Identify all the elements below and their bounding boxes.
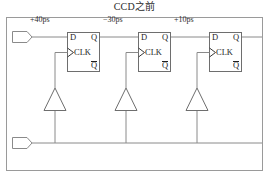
flipflop-2-pin-d: D: [141, 33, 147, 42]
flipflop-3-pin-q: Q: [233, 33, 239, 42]
flipflop-1-pin-d: D: [70, 33, 76, 42]
clock-buffer-1-triangle[interactable]: [44, 88, 66, 111]
flipflop-1-pin-qbar: Q: [91, 61, 97, 70]
flipflop-1-pin-q: Q: [91, 33, 97, 42]
flipflop-2-pin-clk: CLK: [145, 48, 162, 57]
flipflop-3-pin-d: D: [212, 33, 218, 42]
schematic-canvas: [0, 0, 269, 178]
data-input-port-shape[interactable]: [13, 32, 33, 43]
clock-input-port-shape[interactable]: [13, 138, 33, 149]
delay-label-1: +40ps: [30, 15, 50, 24]
clock-buffer-2-triangle[interactable]: [115, 88, 137, 111]
flipflop-3-pin-qbar: Q: [233, 61, 239, 70]
circuit-diagram-figure: CCD之前: [0, 0, 269, 178]
flipflop-1-pin-clk: CLK: [74, 48, 91, 57]
flipflop-3-pin-clk: CLK: [216, 48, 233, 57]
flipflop-2-pin-qbar: Q: [162, 61, 168, 70]
clock-buffer-3-triangle[interactable]: [186, 88, 208, 111]
delay-label-2: −30ps: [103, 15, 123, 24]
flipflop-2-pin-q: Q: [162, 33, 168, 42]
delay-label-3: +10ps: [174, 15, 194, 24]
